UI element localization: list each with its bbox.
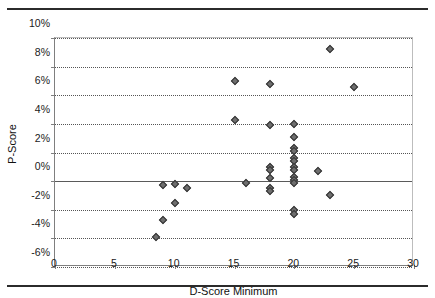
data-point bbox=[158, 181, 166, 189]
top-horizontal-rule bbox=[7, 8, 428, 10]
data-point bbox=[158, 216, 166, 224]
y-tick-label: 8% bbox=[0, 47, 50, 58]
data-point bbox=[326, 45, 334, 53]
y-tick-label: -4% bbox=[0, 218, 50, 229]
scatter-chart: 10%8%6%4%2%0%-2%-4%-6% 051015202530 D-Sc… bbox=[0, 14, 435, 282]
data-point bbox=[350, 82, 358, 90]
x-tick-label: 20 bbox=[273, 258, 313, 269]
x-tick-label: 30 bbox=[393, 258, 433, 269]
data-point bbox=[290, 120, 298, 128]
plot-area bbox=[54, 37, 413, 266]
data-point bbox=[266, 174, 274, 182]
y-axis-title: P-Score bbox=[6, 104, 18, 184]
x-axis-title: D-Score Minimum bbox=[54, 285, 413, 297]
x-tick-label: 25 bbox=[333, 258, 373, 269]
data-point bbox=[170, 180, 178, 188]
data-point bbox=[230, 115, 238, 123]
y-tick-label: -2% bbox=[0, 190, 50, 201]
x-tick-label: 15 bbox=[214, 258, 254, 269]
y-tick-label: 10% bbox=[0, 18, 50, 29]
x-tick-label: 5 bbox=[94, 258, 134, 269]
y-tick-label: -6% bbox=[0, 247, 50, 258]
data-point bbox=[242, 178, 250, 186]
data-point bbox=[314, 167, 322, 175]
y-tick-label: 6% bbox=[0, 75, 50, 86]
data-point bbox=[290, 210, 298, 218]
x-tick-label: 10 bbox=[154, 258, 194, 269]
data-point bbox=[230, 77, 238, 85]
data-point bbox=[266, 80, 274, 88]
x-tick-label: 0 bbox=[34, 258, 74, 269]
data-point bbox=[182, 184, 190, 192]
data-point bbox=[266, 121, 274, 129]
data-points-layer bbox=[55, 38, 412, 265]
data-point bbox=[290, 133, 298, 141]
data-point bbox=[151, 233, 159, 241]
data-point bbox=[170, 198, 178, 206]
figure-container: 10%8%6%4%2%0%-2%-4%-6% 051015202530 D-Sc… bbox=[0, 0, 435, 298]
data-point bbox=[326, 191, 334, 199]
